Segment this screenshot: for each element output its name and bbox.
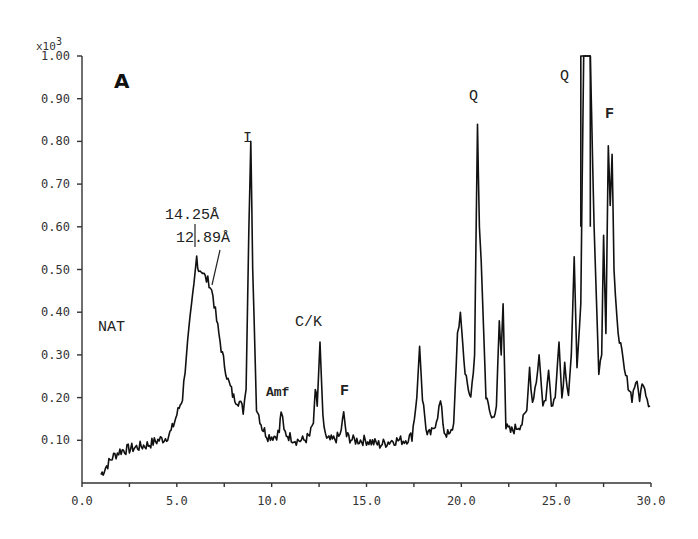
peak-label-illite: I — [243, 130, 252, 147]
y-tick-label: 0.10 — [41, 433, 70, 447]
y-tick-label: 0.70 — [41, 177, 70, 191]
x-tick-label: 15.0 — [352, 494, 381, 508]
y-tick-label: 0.90 — [41, 92, 70, 106]
y-tick-label: 0.40 — [41, 305, 70, 319]
x-tick-label: 20.0 — [447, 494, 476, 508]
x-tick-label: 10.0 — [257, 494, 286, 508]
peak-label-quartz-2: Q — [560, 68, 569, 85]
sample-label-nat: NAT — [98, 319, 125, 336]
x-ticks: 0.05.010.015.020.025.030.0 — [71, 483, 665, 508]
y-ticks: 0.100.200.300.400.500.600.700.800.901.00 — [41, 49, 82, 447]
peak-label-feldspar-1: F — [340, 383, 349, 400]
x-tick-label: 5.0 — [166, 494, 188, 508]
d-spacing-12-89: 12.89Å — [176, 230, 230, 247]
y-tick-label: 0.20 — [41, 391, 70, 405]
axes: 0.100.200.300.400.500.600.700.800.901.00… — [41, 49, 665, 508]
peak-label-amphibole: Amf — [266, 385, 290, 400]
d-spacing-leader-2 — [212, 250, 220, 285]
y-tick-label: 0.80 — [41, 134, 70, 148]
x-tick-label: 25.0 — [542, 494, 571, 508]
y-tick-label: 0.50 — [41, 263, 70, 277]
peak-label-feldspar-2: F — [605, 106, 614, 123]
x-tick-label: 0.0 — [71, 494, 93, 508]
panel-label: A — [114, 69, 130, 93]
d-spacing-14-25: 14.25Å — [165, 207, 219, 224]
peak-label-chlorite-kaolinite: C/K — [295, 314, 322, 331]
diffraction-trace — [101, 56, 650, 475]
y-tick-label: 0.60 — [41, 220, 70, 234]
xrd-chart: 0.100.200.300.400.500.600.700.800.901.00… — [0, 0, 698, 539]
peak-label-quartz-1: Q — [469, 88, 478, 105]
x-tick-label: 30.0 — [637, 494, 666, 508]
y-tick-label: 0.30 — [41, 348, 70, 362]
